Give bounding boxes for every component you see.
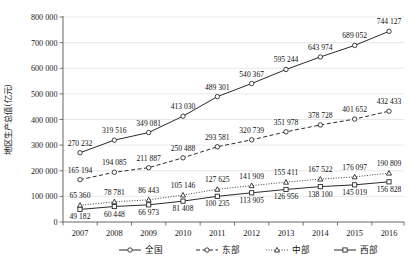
data-point-东部-2010 [181, 156, 185, 160]
y-tick-label: 400 000 [31, 116, 58, 125]
x-tick-label: 2015 [346, 229, 363, 238]
x-tick-label: 2016 [381, 229, 398, 238]
data-label-全国-2013: 595 244 [274, 55, 299, 64]
data-label-中部-2010: 105 146 [171, 181, 196, 190]
data-point-全国-2009 [146, 130, 150, 134]
legend-item-中部[interactable]: 中部 [266, 244, 310, 255]
data-label-全国-2016: 744 127 [377, 17, 402, 26]
data-point-全国-2012 [249, 81, 253, 85]
x-tick-label: 2009 [140, 229, 157, 238]
data-point-中部-2012 [249, 183, 254, 188]
data-label-东部-2009: 211 887 [136, 154, 161, 163]
data-label-中部-2014: 167 522 [308, 165, 333, 174]
data-point-西部-2008 [112, 204, 116, 208]
legend-item-东部[interactable]: 东部 [196, 244, 240, 255]
data-label-全国-2007: 270 232 [68, 139, 93, 148]
data-point-中部-2009 [146, 197, 151, 202]
data-point-东部-2009 [146, 166, 150, 170]
data-point-西部-2014 [318, 185, 322, 189]
data-label-西部-2014: 138 100 [308, 190, 333, 199]
y-tick-label: 100 000 [31, 192, 58, 201]
y-tick-label: 800 000 [31, 13, 58, 22]
data-label-西部-2009: 66 973 [138, 208, 159, 217]
data-label-东部-2007: 165 194 [68, 166, 93, 175]
y-axis-title: 地区生产总值(亿元) [3, 84, 13, 155]
line-chart: 0100 000200 000300 000400 000500 000600 … [0, 0, 413, 264]
data-point-全国-2007 [78, 151, 82, 155]
data-point-西部-2015 [353, 183, 357, 187]
legend-label-西部: 西部 [360, 244, 378, 255]
data-label-西部-2012: 113 905 [239, 196, 264, 205]
data-point-西部-2013 [284, 187, 288, 191]
data-label-东部-2014: 378 728 [308, 111, 333, 120]
data-point-全国-2008 [112, 138, 116, 142]
data-point-东部-2008 [112, 170, 116, 174]
data-point-东部-2015 [352, 117, 356, 121]
legend-marker-东部 [205, 248, 209, 252]
data-point-西部-2011 [215, 194, 219, 198]
legend-marker-全国 [128, 248, 132, 252]
data-label-中部-2011: 127 625 [205, 175, 230, 184]
x-tick-label: 2012 [243, 229, 260, 238]
x-tick-label: 2007 [72, 229, 89, 238]
x-tick-label: 2008 [106, 229, 123, 238]
data-point-全国-2011 [215, 94, 219, 98]
data-label-中部-2007: 65 360 [70, 191, 91, 200]
data-point-西部-2016 [387, 180, 391, 184]
data-point-西部-2007 [78, 207, 82, 211]
data-point-中部-2010 [181, 192, 186, 197]
y-tick-label: 500 000 [31, 90, 58, 99]
data-point-全国-2015 [352, 43, 356, 47]
legend-marker-西部 [343, 248, 347, 252]
legend-label-东部: 东部 [222, 244, 240, 255]
data-label-中部-2013: 155 411 [274, 168, 299, 177]
data-label-西部-2016: 156 828 [377, 185, 402, 194]
data-point-东部-2007 [78, 177, 82, 181]
y-tick-label: 0 [53, 218, 57, 227]
data-point-东部-2013 [284, 130, 288, 134]
data-point-西部-2010 [181, 199, 185, 203]
data-label-东部-2016: 432 433 [377, 97, 402, 106]
data-label-东部-2015: 401 652 [342, 105, 367, 114]
data-label-中部-2008: 78 781 [104, 188, 125, 197]
data-point-东部-2012 [249, 138, 253, 142]
data-label-东部-2008: 194 085 [102, 158, 127, 167]
data-point-西部-2012 [250, 191, 254, 195]
x-tick-label: 2013 [278, 229, 295, 238]
data-label-东部-2012: 320 739 [239, 126, 264, 135]
data-label-东部-2011: 293 581 [205, 133, 230, 142]
data-point-全国-2014 [318, 55, 322, 59]
data-point-中部-2011 [215, 187, 220, 192]
data-point-中部-2007 [78, 203, 83, 208]
data-point-全国-2010 [181, 114, 185, 118]
y-tick-label: 300 000 [31, 141, 58, 150]
data-label-西部-2013: 126 956 [274, 192, 299, 201]
y-tick-label: 600 000 [31, 64, 58, 73]
data-point-东部-2011 [215, 145, 219, 149]
data-point-中部-2013 [284, 180, 289, 185]
data-label-西部-2015: 145 019 [342, 188, 367, 197]
data-label-全国-2011: 489 301 [205, 83, 230, 92]
data-label-全国-2008: 319 516 [102, 126, 127, 135]
legend-marker-中部 [275, 247, 280, 252]
data-label-西部-2007: 49 182 [70, 212, 91, 221]
data-point-全国-2013 [284, 67, 288, 71]
y-tick-label: 200 000 [31, 167, 58, 176]
y-tick-label: 700 000 [31, 39, 58, 48]
data-label-中部-2012: 141 909 [239, 172, 264, 181]
data-point-中部-2016 [387, 171, 392, 176]
x-tick-label: 2014 [312, 229, 330, 238]
data-point-西部-2009 [147, 203, 151, 207]
legend-item-西部[interactable]: 西部 [334, 244, 378, 255]
data-label-西部-2010: 81 408 [173, 204, 194, 213]
data-label-全国-2014: 643 974 [308, 43, 333, 52]
x-tick-label: 2010 [175, 229, 192, 238]
data-label-西部-2011: 100 235 [205, 199, 230, 208]
legend-label-全国: 全国 [145, 244, 163, 255]
legend-item-全国[interactable]: 全国 [119, 244, 163, 255]
data-label-全国-2015: 689 052 [342, 31, 367, 40]
data-label-全国-2012: 540 367 [239, 70, 264, 79]
data-point-东部-2016 [387, 109, 391, 113]
data-label-中部-2015: 176 097 [342, 163, 367, 172]
chart-container: 0100 000200 000300 000400 000500 000600 … [0, 0, 413, 264]
